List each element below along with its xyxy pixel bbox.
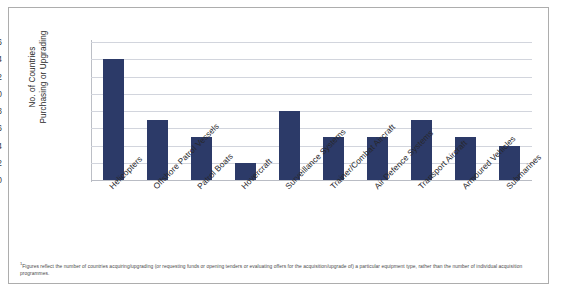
figure-frame: No. of Countries Purchasing or Upgrading… [8,7,549,284]
y-axis-title-line-1: No. of Countries [27,12,38,142]
y-tick-label-6: 6 [0,123,2,133]
y-tick-label-12: 12 [0,72,2,82]
gridline-16 [91,42,532,43]
gridline-14 [91,59,532,60]
gridline-12 [91,77,532,78]
bar-helicopters[interactable] [103,59,124,180]
y-tick-label-16: 16 [0,37,2,47]
footnote: 1Figures reflect the number of countries… [20,260,538,277]
gridline-8 [91,111,532,112]
y-tick-label-10: 10 [0,89,2,99]
y-tick-label-14: 14 [0,54,2,64]
footnote-text: Figures reflect the number of countries … [20,264,522,276]
y-axis-title-line-2: Purchasing or Upgrading [38,12,49,142]
y-tick-label-8: 8 [0,106,2,116]
y-tick-label-0: 0 [0,175,2,185]
gridline-10 [91,94,532,95]
y-tick-label-2: 2 [0,158,2,168]
y-tick-label-4: 4 [0,141,2,151]
bar-chart: No. of Countries Purchasing or Upgrading… [9,8,550,248]
y-axis-title: No. of Countries Purchasing or Upgrading [27,12,61,142]
